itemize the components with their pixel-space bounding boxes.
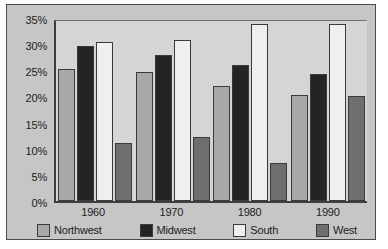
y-axis-tick-label: 20% — [26, 92, 47, 104]
bar-northwest-1960 — [58, 69, 75, 201]
bar-south-1960 — [96, 42, 113, 201]
y-axis-tick-label: 0% — [32, 197, 48, 209]
bar-west-1990 — [348, 96, 365, 201]
legend-item-west: West — [316, 224, 357, 237]
legend-item-northwest: Northwest — [37, 224, 102, 237]
x-axis-tick-label: 1980 — [211, 204, 289, 220]
bar-midwest-1960 — [77, 46, 94, 201]
legend-label: West — [333, 224, 357, 236]
bar-group — [289, 21, 367, 201]
x-axis-tick-label: 1970 — [132, 204, 210, 220]
x-axis-tick-label: 1990 — [289, 204, 367, 220]
y-axis-tick-label: 15% — [26, 119, 47, 131]
y-axis-tick-label: 30% — [26, 40, 47, 52]
y-axis: 0%5%10%15%20%25%30%35% — [7, 5, 51, 239]
y-axis-tick-label: 5% — [32, 171, 48, 183]
bar-northwest-1970 — [136, 72, 153, 201]
x-axis-tick-label: 1960 — [54, 204, 132, 220]
bar-group — [212, 21, 290, 201]
y-axis-tick-label: 25% — [26, 66, 47, 78]
bar-groups — [56, 21, 367, 201]
legend-label: Midwest — [157, 224, 196, 236]
chart-plot-wrapper: 0%5%10%15%20%25%30%35% 1960197019801990 … — [7, 5, 375, 239]
bar-south-1980 — [251, 24, 268, 201]
bar-south-1970 — [174, 40, 191, 201]
bar-northwest-1990 — [291, 95, 308, 201]
legend-swatch-northwest — [37, 224, 50, 237]
x-axis: 1960197019801990 — [54, 204, 367, 220]
legend-item-midwest: Midwest — [140, 224, 196, 237]
chart-card: 0%5%10%15%20%25%30%35% 1960197019801990 … — [6, 4, 376, 240]
bar-northwest-1980 — [213, 86, 230, 201]
legend-swatch-midwest — [140, 224, 153, 237]
legend-label: South — [250, 224, 278, 236]
bar-west-1970 — [193, 137, 210, 201]
legend-label: Northwest — [54, 224, 102, 236]
plot-area — [54, 20, 367, 203]
bar-west-1980 — [270, 163, 287, 201]
bar-south-1990 — [329, 24, 346, 201]
bar-group — [56, 21, 134, 201]
legend-swatch-south — [233, 224, 246, 237]
y-axis-tick-label: 10% — [26, 145, 47, 157]
chart-legend: NorthwestMidwestSouthWest — [37, 221, 357, 239]
bar-midwest-1990 — [310, 74, 327, 201]
y-axis-tick-label: 35% — [26, 14, 47, 26]
bar-group — [134, 21, 212, 201]
legend-swatch-west — [316, 224, 329, 237]
bar-midwest-1980 — [232, 65, 249, 201]
legend-item-south: South — [233, 224, 278, 237]
bar-midwest-1970 — [155, 55, 172, 201]
bar-west-1960 — [115, 143, 132, 201]
